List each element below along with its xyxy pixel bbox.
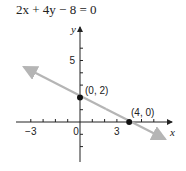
point-0-2 <box>77 94 83 100</box>
point-label-0-2: (0, 2) <box>85 85 108 96</box>
point-label-4-0: (4, 0) <box>131 107 154 118</box>
tick-label-5: 5 <box>69 55 75 66</box>
graph: −3 0 3 5 x y (0, 2) (4, 0) <box>0 0 186 171</box>
tick-label-0: 0 <box>73 126 79 137</box>
tick-label-3: 3 <box>114 126 120 137</box>
point-4-0 <box>126 119 132 125</box>
y-axis-label: y <box>70 23 76 35</box>
x-axis-label: x <box>169 126 175 138</box>
tick-label-neg3: −3 <box>25 126 37 137</box>
